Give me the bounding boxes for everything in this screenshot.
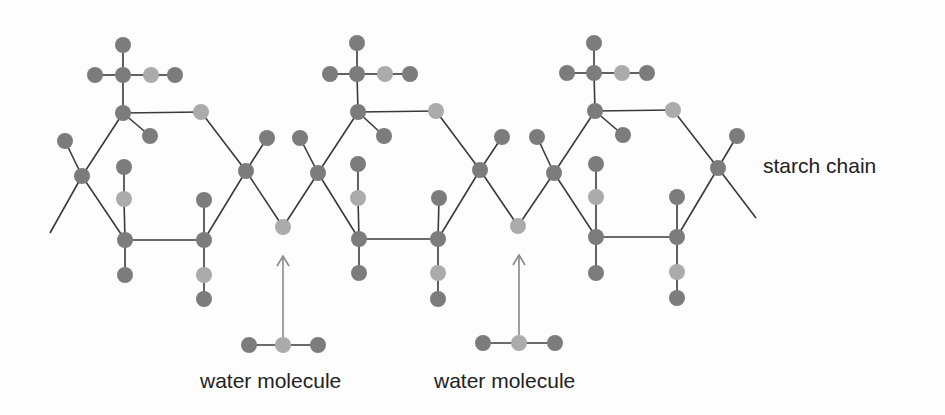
oxygen-atom <box>143 67 159 83</box>
atom <box>349 35 365 51</box>
bond-line <box>201 112 246 171</box>
atom <box>430 231 446 247</box>
arrow-up-icon <box>513 255 525 335</box>
atom <box>350 156 366 172</box>
atom <box>238 163 254 179</box>
atom <box>259 130 275 146</box>
oxygen-atom <box>275 219 291 235</box>
atom <box>729 128 745 144</box>
atom <box>559 65 575 81</box>
water-hydrogen-atom <box>241 337 257 353</box>
atom <box>322 66 338 82</box>
bond-line <box>554 173 596 237</box>
bond-line <box>82 176 125 240</box>
water-hydrogen-atom <box>310 337 326 353</box>
bond-line <box>358 111 436 112</box>
atom <box>196 232 212 248</box>
atom <box>588 265 604 281</box>
atom <box>588 156 604 172</box>
arrow-up-icon <box>277 256 289 337</box>
bond-line <box>123 112 201 113</box>
atom <box>349 66 365 82</box>
atom <box>351 231 367 247</box>
atom <box>587 103 603 119</box>
water-molecule-label-1: water molecule <box>200 370 341 391</box>
atom <box>310 165 326 181</box>
atom <box>494 129 510 145</box>
water-molecule-label-2: water molecule <box>434 370 575 391</box>
water-oxygen-atom <box>511 335 527 351</box>
oxygen-atom <box>430 265 446 281</box>
atom <box>57 133 73 149</box>
bonds-layer <box>50 43 756 345</box>
atom <box>546 165 562 181</box>
oxygen-atom <box>116 191 132 207</box>
atom <box>710 160 726 176</box>
oxygen-atom <box>196 267 212 283</box>
arrows-layer <box>277 255 525 337</box>
atom <box>196 192 212 208</box>
bond-line <box>246 171 283 227</box>
atom <box>529 129 545 145</box>
atom <box>615 127 631 143</box>
bond-line <box>595 110 673 111</box>
atom <box>430 291 446 307</box>
atom <box>586 65 602 81</box>
water-hydrogen-atom <box>475 335 491 351</box>
oxygen-atom <box>665 102 681 118</box>
atom <box>87 67 103 83</box>
starch-chain-diagram: starch chain water molecule water molecu… <box>0 0 945 415</box>
atom <box>431 190 447 206</box>
bond-line <box>718 168 756 218</box>
oxygen-atom <box>588 189 604 205</box>
atom <box>669 290 685 306</box>
starch-chain-label: starch chain <box>763 155 876 176</box>
bond-line <box>204 171 246 240</box>
bond-line <box>480 170 518 226</box>
atom <box>167 67 183 83</box>
atom <box>117 232 133 248</box>
atom <box>669 229 685 245</box>
oxygen-atom <box>377 66 393 82</box>
bond-line <box>673 110 718 168</box>
atom <box>116 159 132 175</box>
bond-line <box>283 173 318 227</box>
molecule-drawing <box>0 0 945 415</box>
atom <box>669 189 685 205</box>
atom <box>292 130 308 146</box>
oxygen-atom <box>669 264 685 280</box>
oxygen-atom <box>193 104 209 120</box>
atom <box>115 37 131 53</box>
water-oxygen-atom <box>275 337 291 353</box>
bond-line <box>318 173 359 239</box>
atom <box>472 162 488 178</box>
atom <box>115 105 131 121</box>
bond-line <box>436 111 480 170</box>
atom <box>586 35 602 51</box>
oxygen-atom <box>428 103 444 119</box>
oxygen-atom <box>614 65 630 81</box>
atoms-layer <box>57 35 745 353</box>
atom <box>639 65 655 81</box>
atom <box>142 128 158 144</box>
atom <box>74 168 90 184</box>
water-hydrogen-atom <box>547 335 563 351</box>
atom <box>350 104 366 120</box>
oxygen-atom <box>350 190 366 206</box>
atom <box>376 128 392 144</box>
atom <box>115 67 131 83</box>
atom <box>588 229 604 245</box>
atom <box>351 265 367 281</box>
oxygen-atom <box>510 218 526 234</box>
bond-line <box>518 173 554 226</box>
bond-line <box>677 168 718 237</box>
atom <box>117 267 133 283</box>
bond-line <box>438 170 480 239</box>
bond-line <box>50 176 82 233</box>
atom <box>196 291 212 307</box>
atom <box>402 66 418 82</box>
